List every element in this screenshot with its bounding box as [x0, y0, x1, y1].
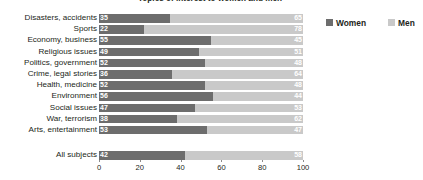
category-label: Disasters, accidents [0, 13, 97, 23]
bar-track: 5248 [99, 59, 303, 68]
category-label: Environment [0, 91, 97, 101]
bar-segment-women [99, 70, 172, 79]
bar-value-men: 48 [294, 59, 302, 68]
bar-track: 5248 [99, 81, 303, 90]
bar-value-women: 52 [100, 59, 108, 68]
axis-tick-mark [140, 160, 141, 162]
axis-tick-label: 100 [297, 163, 310, 172]
chart-row: Economy, business5545 [0, 35, 423, 46]
x-axis: 020406080100 [99, 162, 303, 176]
bar-segment-women [99, 104, 195, 113]
bar-value-women: 47 [100, 104, 108, 113]
category-label: Crime, legal stories [0, 69, 97, 79]
axis-tick-label: 80 [258, 163, 266, 172]
stacked-bar-chart: Topics of interest to women and men Disa… [0, 0, 423, 180]
category-label: Politics, government [0, 58, 97, 68]
bar-value-women: 38 [100, 115, 108, 124]
axis-tick-label: 0 [97, 163, 101, 172]
bar-track: 3862 [99, 115, 303, 124]
legend-label-women: Women [336, 18, 366, 28]
category-label: Religious issues [0, 47, 97, 57]
bar-track: 3664 [99, 70, 303, 79]
bar-track: 2278 [99, 25, 303, 34]
axis-tick-mark [99, 160, 100, 162]
chart-row: Health, medicine5248 [0, 80, 423, 91]
total-row-men-value: 58 [294, 151, 302, 160]
bar-value-men: 65 [294, 14, 302, 23]
bar-value-women: 55 [100, 36, 108, 45]
chart-row: Environment5644 [0, 91, 423, 102]
bar-track: 5347 [99, 126, 303, 135]
chart-row: Religious issues4951 [0, 47, 423, 58]
bar-segment-women [99, 48, 199, 57]
category-label: Arts, entertainment [0, 125, 97, 135]
bar-value-men: 48 [294, 81, 302, 90]
axis-tick-mark [262, 160, 263, 162]
bar-value-women: 35 [100, 14, 108, 23]
chart-row: Politics, government5248 [0, 58, 423, 69]
total-row: All subjects 42 58 [0, 150, 423, 162]
bar-value-men: 64 [294, 70, 302, 79]
legend-swatch-men-icon [388, 19, 395, 26]
legend-swatch-women-icon [326, 19, 333, 26]
bar-segment-women [99, 115, 177, 124]
bar-track: 5644 [99, 92, 303, 101]
bar-segment-women [99, 81, 205, 90]
axis-tick-label: 20 [136, 163, 144, 172]
bar-value-men: 78 [294, 25, 302, 34]
category-label: War, terrorism [0, 114, 97, 124]
bar-value-men: 44 [294, 92, 302, 101]
total-row-label: All subjects [0, 150, 97, 160]
chart-row: War, terrorism3862 [0, 114, 423, 125]
category-label: Social issues [0, 103, 97, 113]
axis-tick-mark [181, 160, 182, 162]
bar-value-men: 51 [294, 48, 302, 57]
axis-tick-mark [303, 160, 304, 162]
bar-track: 5545 [99, 36, 303, 45]
bar-track: 3565 [99, 14, 303, 23]
bar-value-men: 62 [294, 115, 302, 124]
legend-item-women: Women [326, 13, 366, 31]
legend-item-men: Men [388, 13, 415, 31]
chart-row: Crime, legal stories3664 [0, 69, 423, 80]
chart-title: Topics of interest to women and men [95, 0, 325, 3]
bar-segment-women [99, 14, 170, 23]
bar-segment-women [99, 36, 211, 45]
chart-rows: Disasters, accidents3565Sports2278Econom… [0, 13, 423, 136]
total-row-women-fill [99, 151, 185, 160]
bar-value-men: 45 [294, 36, 302, 45]
total-row-track: 42 58 [99, 151, 303, 160]
bar-value-women: 22 [100, 25, 108, 34]
bar-segment-women [99, 92, 213, 101]
axis-tick-mark [221, 160, 222, 162]
chart-row: Social issues4753 [0, 103, 423, 114]
category-label: Health, medicine [0, 80, 97, 90]
bar-value-women: 53 [100, 126, 108, 135]
axis-tick-label: 40 [176, 163, 184, 172]
category-label: Economy, business [0, 35, 97, 45]
legend-label-men: Men [398, 18, 415, 28]
bar-value-women: 36 [100, 70, 108, 79]
bar-value-men: 53 [294, 104, 302, 113]
chart-row: Arts, entertainment5347 [0, 125, 423, 136]
bar-track: 4951 [99, 48, 303, 57]
bar-value-women: 49 [100, 48, 108, 57]
bar-segment-women [99, 126, 207, 135]
total-row-women-value: 42 [100, 151, 108, 160]
bar-value-women: 52 [100, 81, 108, 90]
bar-value-women: 56 [100, 92, 108, 101]
bar-segment-women [99, 59, 205, 68]
bar-track: 4753 [99, 104, 303, 113]
axis-tick-label: 60 [217, 163, 225, 172]
category-label: Sports [0, 24, 97, 34]
bar-value-men: 47 [294, 126, 302, 135]
